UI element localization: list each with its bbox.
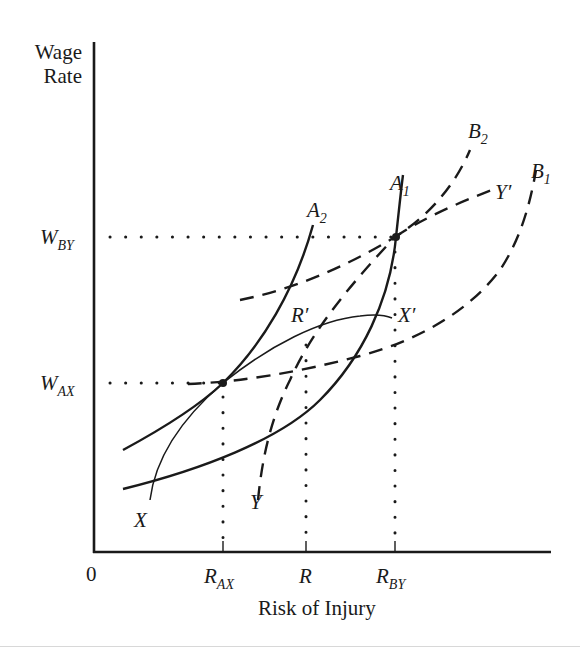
- label-rax: RAX: [203, 564, 234, 592]
- curve-b2: [240, 150, 470, 300]
- curve-a2: [123, 225, 313, 450]
- y-axis-label-line2: Rate: [44, 64, 82, 88]
- label-rby: RBY: [375, 564, 407, 592]
- curve-b1: [188, 170, 536, 384]
- label-wax: WAX: [40, 371, 75, 399]
- tangency-by: [392, 233, 400, 241]
- label-r: R: [298, 564, 312, 588]
- curve-x: [150, 315, 392, 500]
- x-axis-label: Risk of Injury: [258, 596, 376, 620]
- label-y-prime: Y′: [495, 180, 512, 204]
- wage-risk-diagram: Wage Rate A2 A1 B2 B1 Y′ X′ R′ X Y WBY W…: [0, 0, 580, 657]
- label-wby: WBY: [40, 225, 76, 253]
- label-a1: A1: [388, 171, 410, 199]
- label-origin: 0: [86, 562, 97, 586]
- label-b1: B1: [531, 159, 551, 187]
- curve-a1: [123, 175, 403, 489]
- curve-y: [258, 237, 395, 500]
- bottom-divider: [0, 646, 580, 647]
- label-x-prime: X′: [397, 303, 416, 327]
- label-a2: A2: [305, 198, 327, 226]
- tangency-ax: [219, 379, 227, 387]
- label-b2: B2: [468, 119, 488, 147]
- label-r-prime: R′: [290, 303, 309, 327]
- label-x: X: [133, 508, 148, 532]
- label-y: Y: [250, 490, 264, 514]
- y-axis-label-line1: Wage: [35, 40, 82, 64]
